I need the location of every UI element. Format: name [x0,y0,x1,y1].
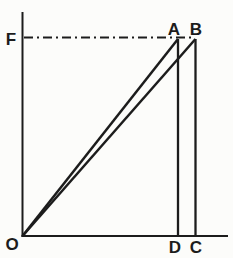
graph-figure: F O A B D C [0,0,233,258]
point-label-d: D [169,238,181,257]
point-label-c: C [190,238,202,257]
point-label-b: B [190,20,202,39]
point-label-o: O [5,235,18,254]
point-label-f: F [6,30,16,49]
point-label-a: A [168,20,180,39]
diagram-canvas: F O A B D C [0,0,233,258]
